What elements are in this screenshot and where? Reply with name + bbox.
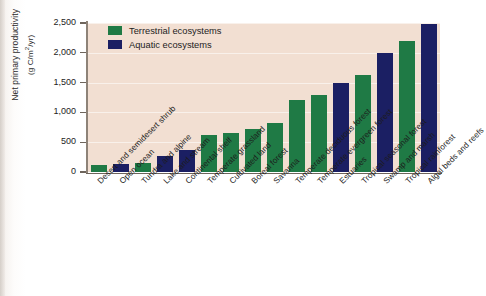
bar-swamp-and-marsh[interactable] (377, 53, 392, 172)
bar-continental-shelf[interactable] (179, 150, 194, 172)
y-axis-units-prefix: (g C/m (26, 50, 35, 75)
y-axis-title-line1: Net primary productivity (10, 9, 20, 101)
bar-lake-and-stream[interactable] (157, 156, 172, 172)
y-axis-tick-label: 500 (61, 136, 76, 146)
y-axis-title: Net primary productivity (g C/m2/yr) (10, 0, 36, 130)
y-axis-tick (80, 22, 86, 23)
legend-item-aquatic[interactable]: Aquatic ecosystems (108, 38, 221, 51)
legend-item-terrestrial[interactable]: Terrestrial ecosystems (108, 24, 221, 37)
bar-temperate-deciduous-forest[interactable] (289, 100, 304, 172)
bar-desert-and-semidesert-shrub[interactable] (91, 165, 106, 172)
y-axis-tick-label: 0 (71, 166, 76, 176)
y-axis-tick (80, 82, 86, 83)
legend-swatch-terrestrial (108, 26, 122, 35)
bar-cultivated-land[interactable] (223, 133, 238, 172)
bar-tundra-and-alpine[interactable] (135, 163, 150, 172)
bar-savanna[interactable] (267, 123, 282, 172)
bar-algal-beds-and-reefs[interactable] (421, 24, 436, 172)
legend-swatch-aquatic (108, 40, 122, 49)
y-axis-line (86, 21, 88, 174)
y-axis-tick (80, 52, 86, 53)
bar-temperate-evergreen-forest[interactable] (311, 95, 326, 172)
legend-label-aquatic: Aquatic ecosystems (129, 40, 212, 50)
y-axis-tick (80, 171, 86, 172)
y-axis-title-units: (g C/m2/yr) (21, 0, 36, 130)
bar-open-ocean[interactable] (113, 164, 128, 172)
y-axis-tick-label: 1,000 (53, 106, 76, 116)
y-axis-tick (80, 142, 86, 143)
y-axis-units-suffix: /yr) (26, 35, 35, 47)
legend: Terrestrial ecosystems Aquatic ecosystem… (108, 24, 221, 52)
bar-temperate-grassland[interactable] (201, 135, 216, 172)
y-axis-units-exponent: 2 (23, 47, 30, 51)
legend-label-terrestrial: Terrestrial ecosystems (129, 26, 221, 36)
y-axis-tick-label: 2,500 (53, 17, 76, 27)
bar-tropical-rainforest[interactable] (399, 41, 414, 172)
bar-tropical-seasonal-forest[interactable] (355, 75, 370, 172)
y-axis-tick (80, 112, 86, 113)
bar-boreal-forest[interactable] (245, 129, 260, 172)
x-axis-line (86, 173, 442, 174)
y-axis-tick-label: 1,500 (53, 77, 76, 87)
bar-estuaries[interactable] (333, 83, 348, 172)
y-axis-tick-label: 2,000 (53, 47, 76, 57)
